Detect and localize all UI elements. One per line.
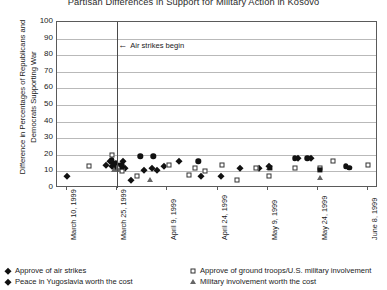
gridline [57, 122, 376, 123]
legend-row: Peace in Yugoslavia worth the costMilita… [4, 277, 387, 288]
data-point [217, 173, 223, 179]
data-point [266, 174, 271, 179]
gridline [57, 39, 376, 40]
legend-row: Approve of air strikesApprove of ground … [4, 266, 387, 277]
data-point [254, 166, 259, 171]
chart-title: Partisan Differences in Support for Mili… [0, 0, 387, 7]
x-axis-tick-label: April 24, 1999 [220, 195, 229, 240]
plot-area [56, 21, 377, 187]
data-point [167, 162, 172, 167]
data-point [198, 173, 204, 179]
x-axis-tick-mark [116, 187, 117, 190]
data-point [331, 159, 336, 164]
y-axis-tick-label: 70 [1, 66, 53, 75]
data-point [234, 177, 239, 182]
data-point [63, 173, 69, 179]
y-axis-tick-label: 100 [1, 16, 53, 25]
data-point [318, 167, 323, 172]
legend-item: Military involvement worth the cost [189, 277, 316, 286]
data-point [119, 164, 124, 169]
data-point [366, 162, 371, 167]
x-axis-tick-mark [367, 187, 368, 190]
gridline [57, 88, 376, 89]
gridline [57, 105, 376, 106]
x-axis-tick-label: April 9, 1999 [169, 199, 178, 240]
data-point [267, 165, 272, 170]
y-axis-tick-label: 20 [1, 149, 53, 158]
x-axis-tick-mark [267, 187, 268, 190]
y-axis-tick-label: 90 [1, 33, 53, 42]
data-point [237, 165, 243, 171]
x-axis-tick-label: May 24, 1999 [320, 196, 329, 240]
legend-label: Military involvement worth the cost [200, 277, 316, 286]
data-point [176, 158, 182, 164]
gridline [57, 138, 376, 139]
legend-label: Approve of air strikes [15, 266, 86, 275]
chart-legend: Approve of air strikesApprove of ground … [4, 266, 387, 288]
x-axis-tick-mark [217, 187, 218, 190]
event-annotation: ← Air strikes begin [118, 41, 184, 50]
legend-label: Peace in Yugoslavia worth the cost [15, 277, 133, 286]
gridline [57, 155, 376, 156]
data-point [160, 163, 166, 169]
chart-figure: Partisan Differences in Support for Mili… [0, 0, 387, 290]
data-point [135, 174, 140, 179]
data-point [193, 166, 198, 171]
y-axis-tick-label: 80 [1, 49, 53, 58]
legend-marker-icon [4, 278, 11, 285]
legend-item: Approve of ground troops/U.S. military i… [189, 266, 371, 275]
data-point [202, 169, 207, 174]
y-axis-tick-label: 40 [1, 116, 53, 125]
x-axis-tick-label: March 10, 1999 [69, 189, 78, 240]
y-axis-tick-label: 0 [1, 182, 53, 191]
x-axis-tick-mark [66, 187, 67, 190]
data-point [196, 159, 201, 164]
legend-item: Approve of air strikes [4, 266, 86, 275]
legend-marker-icon [189, 278, 196, 285]
x-axis-tick-label: June 8, 1999 [370, 198, 379, 240]
x-axis-tick-label: May 9, 1999 [270, 200, 279, 240]
y-axis-tick-label: 10 [1, 165, 53, 174]
data-point [346, 165, 351, 170]
legend-marker-icon [189, 267, 196, 274]
legend-marker-icon [4, 267, 11, 274]
data-point [87, 164, 92, 169]
y-axis-tick-label: 60 [1, 82, 53, 91]
y-axis-tick-label: 30 [1, 132, 53, 141]
data-point [151, 154, 156, 159]
legend-label: Approve of ground troops/U.S. military i… [200, 266, 371, 275]
data-point [317, 175, 323, 180]
data-point [138, 154, 143, 159]
gridline [57, 55, 376, 56]
data-point [128, 176, 134, 182]
data-point [220, 162, 225, 167]
x-axis-tick-label: March 25, 1999 [119, 189, 128, 240]
data-point [147, 177, 153, 182]
data-point [186, 172, 191, 177]
gridline [57, 72, 376, 73]
y-axis-tick-label: 50 [1, 99, 53, 108]
legend-item: Peace in Yugoslavia worth the cost [4, 277, 133, 286]
event-annotation-label: Air strikes begin [130, 41, 184, 50]
gridline [57, 171, 376, 172]
data-point [292, 166, 297, 171]
x-axis-tick-mark [317, 187, 318, 190]
x-axis-tick-mark [166, 187, 167, 190]
left-arrow-icon: ← [118, 41, 127, 50]
